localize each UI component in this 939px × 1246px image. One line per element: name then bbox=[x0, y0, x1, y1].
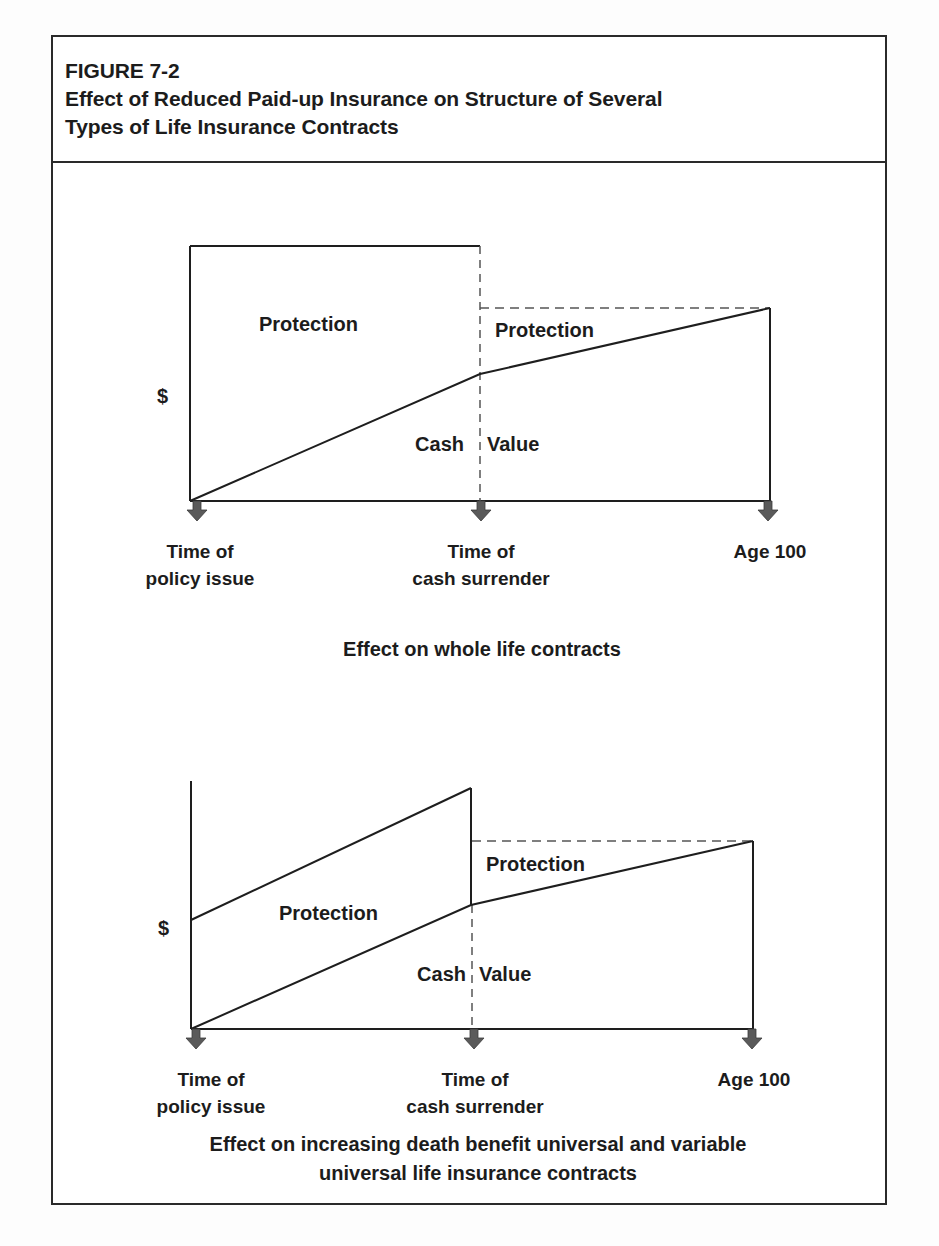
protection-label-after: Protection bbox=[495, 319, 594, 341]
down-arrow-icon bbox=[187, 501, 207, 521]
down-arrow-icon bbox=[186, 1029, 206, 1049]
diagram-caption-line-1: Effect on whole life contracts bbox=[343, 638, 621, 660]
value-label: Value bbox=[479, 963, 531, 985]
down-arrow-icon bbox=[758, 501, 778, 521]
protection-label-before: Protection bbox=[279, 902, 378, 924]
marker-cash-surrender-line-1: Time of bbox=[447, 541, 515, 562]
marker-cash-surrender-line-2: cash surrender bbox=[406, 1096, 544, 1117]
diagram-whole-life: $ Protection Protection Cash Value Time … bbox=[146, 246, 807, 660]
marker-age-100: Age 100 bbox=[734, 541, 807, 562]
down-arrow-icon bbox=[742, 1029, 762, 1049]
down-arrow-icon bbox=[471, 501, 491, 521]
value-label: Value bbox=[487, 433, 539, 455]
diagram-caption-line-1: Effect on increasing death benefit unive… bbox=[210, 1133, 747, 1155]
marker-age-100: Age 100 bbox=[718, 1069, 791, 1090]
marker-policy-issue-line-2: policy issue bbox=[146, 568, 255, 589]
marker-policy-issue-line-1: Time of bbox=[166, 541, 234, 562]
increasing-death-benefit-line bbox=[191, 788, 471, 920]
diagram-increasing-death-benefit-ul: $ Protection Protection Cash Value Time … bbox=[157, 781, 791, 1184]
figure-diagrams: $ Protection Protection Cash Value Time … bbox=[0, 0, 939, 1246]
down-arrow-icon bbox=[464, 1029, 484, 1049]
cash-label: Cash bbox=[415, 433, 464, 455]
protection-label-before: Protection bbox=[259, 313, 358, 335]
cash-label: Cash bbox=[417, 963, 466, 985]
marker-policy-issue-line-2: policy issue bbox=[157, 1096, 266, 1117]
marker-cash-surrender-line-1: Time of bbox=[441, 1069, 509, 1090]
y-axis-label: $ bbox=[158, 917, 169, 939]
marker-cash-surrender-line-2: cash surrender bbox=[412, 568, 550, 589]
y-axis-label: $ bbox=[157, 385, 168, 407]
marker-policy-issue-line-1: Time of bbox=[177, 1069, 245, 1090]
diagram-caption-line-2: universal life insurance contracts bbox=[319, 1162, 637, 1184]
protection-label-after: Protection bbox=[486, 853, 585, 875]
